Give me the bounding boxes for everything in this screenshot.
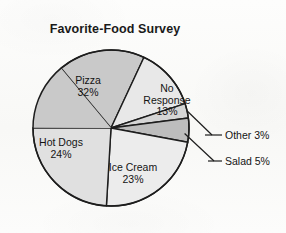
slice-label-no-response-value: 13% xyxy=(135,106,199,118)
slice-label-pizza-value: 32% xyxy=(58,87,118,99)
slice-label-hot-dogs: Hot Dogs 24% xyxy=(27,137,95,160)
slice-label-pizza-name: Pizza xyxy=(58,75,118,87)
slice-label-no-response: No Response 13% xyxy=(135,83,199,118)
slice-label-hot-dogs-value: 24% xyxy=(27,149,95,161)
pie-chart-figure: Favorite-Food Survey Pizza 32% xyxy=(0,0,286,233)
slice-label-ice-cream-value: 23% xyxy=(96,174,170,186)
slice-label-ice-cream: Ice Cream 23% xyxy=(96,162,170,185)
slice-label-pizza: Pizza 32% xyxy=(58,75,118,98)
slice-label-ice-cream-name: Ice Cream xyxy=(96,162,170,174)
callout-label-other: Other 3% xyxy=(225,129,269,141)
slice-label-no-response-line1: No xyxy=(135,83,199,95)
callout-label-salad: Salad 5% xyxy=(225,155,270,167)
leader-line-salad xyxy=(185,134,214,162)
slice-label-hot-dogs-name: Hot Dogs xyxy=(27,137,95,149)
